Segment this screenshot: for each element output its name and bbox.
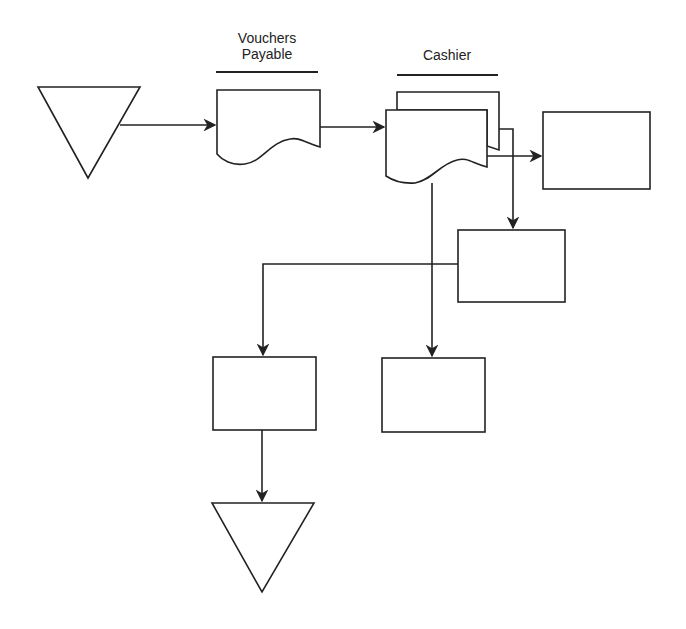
cashier-document-front-copy[interactable] (386, 110, 487, 183)
vouchers-payable-label: Vouchers Payable (217, 30, 317, 62)
file-start-triangle[interactable] (38, 87, 140, 178)
box-bottom-left[interactable] (213, 357, 316, 430)
box-middle-right[interactable] (458, 230, 565, 302)
flowchart-canvas (0, 0, 686, 629)
box-bottom-center[interactable] (382, 358, 485, 432)
vouchers-payable-label-line1: Vouchers (217, 30, 317, 46)
arrow-middle-right-to-bottom-left-box (263, 264, 458, 355)
arrow-cashier-to-middle-right-box (499, 129, 513, 228)
vouchers-payable-label-line2: Payable (217, 46, 317, 62)
file-end-triangle[interactable] (212, 503, 314, 592)
box-right[interactable] (543, 112, 650, 189)
cashier-label: Cashier (397, 47, 497, 63)
vp-document[interactable] (217, 90, 320, 164)
